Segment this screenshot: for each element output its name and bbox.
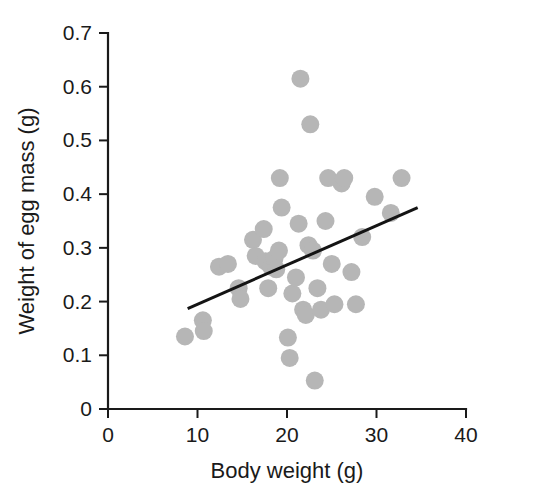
x-tick-label: 10	[186, 423, 209, 446]
data-point	[325, 295, 343, 313]
data-point	[301, 115, 319, 133]
data-point	[393, 169, 411, 187]
y-axis-title: Weight of egg mass (g)	[14, 107, 39, 334]
y-tick-label: 0.1	[63, 343, 92, 366]
data-point	[347, 295, 365, 313]
y-tick-label: 0.7	[63, 21, 92, 44]
y-tick-label: 0.4	[63, 182, 93, 205]
data-point	[219, 255, 237, 273]
data-point	[290, 215, 308, 233]
data-point	[273, 199, 291, 217]
x-tick-label: 20	[275, 423, 298, 446]
data-point	[281, 349, 299, 367]
x-axis-ticks: 010203040	[102, 409, 478, 446]
data-point	[316, 212, 334, 230]
data-point	[259, 279, 277, 297]
data-point	[306, 372, 324, 390]
x-axis-title: Body weight (g)	[211, 458, 364, 483]
y-axis-ticks: 00.10.20.30.40.50.60.7	[63, 21, 108, 420]
y-tick-label: 0.3	[63, 236, 92, 259]
data-point	[366, 188, 384, 206]
x-tick-label: 40	[454, 423, 477, 446]
x-tick-label: 30	[365, 423, 388, 446]
plot-canvas: 00.10.20.30.40.50.60.7 010203040 Body we…	[0, 0, 538, 488]
data-point	[342, 263, 360, 281]
data-point	[231, 290, 249, 308]
data-point	[283, 285, 301, 303]
data-point	[335, 169, 353, 187]
data-point	[308, 279, 326, 297]
scatter-plot-figure: 00.10.20.30.40.50.60.7 010203040 Body we…	[0, 0, 538, 488]
y-tick-label: 0.6	[63, 75, 92, 98]
data-point	[287, 268, 305, 286]
data-point	[271, 169, 289, 187]
y-tick-label: 0.2	[63, 290, 92, 313]
data-point	[195, 322, 213, 340]
data-point	[255, 220, 273, 238]
x-tick-label: 0	[102, 423, 114, 446]
data-point	[291, 70, 309, 88]
data-point	[323, 255, 341, 273]
data-points-layer	[176, 70, 411, 390]
data-point	[270, 242, 288, 260]
data-point	[176, 327, 194, 345]
y-tick-label: 0.5	[63, 128, 92, 151]
y-tick-label: 0	[80, 397, 92, 420]
data-point	[279, 329, 297, 347]
